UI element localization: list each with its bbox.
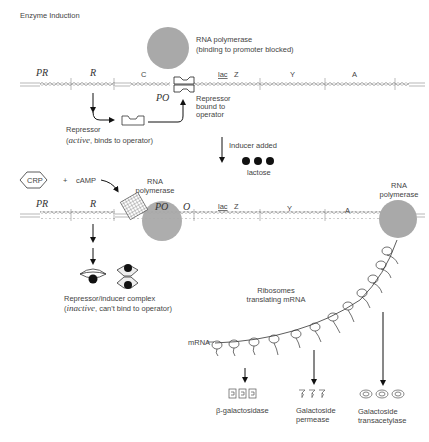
product-label-permease-line2: permease (296, 415, 329, 424)
diagram-title: Enzyme Induction (20, 11, 80, 20)
mrna-label: mRNA (188, 338, 210, 347)
beta-galactosidase-icon (229, 389, 256, 398)
product-label-beta-galactosidase: β-galactosidase (216, 406, 269, 415)
repressor-active-icon (122, 116, 144, 125)
gene-pr-top: PR (35, 67, 48, 78)
repressor-dimer-inducer-icon (117, 264, 138, 289)
galactoside-permease-icon (299, 390, 325, 398)
repressor-state: (active, binds to operator) (66, 135, 153, 145)
gene-pr-bottom: PR (35, 198, 48, 209)
crp-label: CRP (27, 176, 43, 185)
rna-polymerase-1-line2: polymerase (136, 186, 175, 195)
gene-lac-bottom: lac (218, 202, 228, 211)
product-label-transacetylase-line1: Galactoside (358, 407, 398, 416)
inducer-label: Inducer added (229, 141, 277, 150)
gene-z-top: Z (234, 70, 239, 79)
gene-y-bottom: Y (287, 204, 292, 213)
rna-polymerase-label: RNA polymerase (196, 35, 252, 44)
rna-polymerase-2-line2: polymerase (380, 190, 419, 199)
galactoside-transacetylase-icon (360, 390, 404, 398)
plus-sign: + (63, 176, 68, 185)
gene-y-top: Y (290, 70, 295, 79)
gene-po-top: PO (155, 92, 169, 103)
gene-a-bottom: A (345, 206, 350, 215)
rna-polymerase-blocked (147, 27, 189, 69)
gene-r-bottom: R (89, 198, 96, 209)
rna-polymerase-2-line1: RNA (391, 181, 407, 190)
gene-z-bottom: Z (234, 202, 239, 211)
product-label-permease-line1: Galactoside (296, 406, 336, 415)
product-arrows (245, 312, 383, 383)
rna-polymerase-1-line1: RNA (147, 177, 163, 186)
ribosomes-label-line2: translating mRNA (247, 295, 306, 304)
mrna-strand (215, 240, 397, 343)
lactose-label: lactose (247, 168, 271, 177)
gene-po-bottom: PO (154, 201, 168, 212)
lactose-molecules (242, 157, 274, 165)
rna-polymerase-sub: (binding to promoter blocked) (196, 45, 294, 54)
complex-state: (inactive, can't bind to operator) (64, 303, 172, 313)
gene-r-top: R (89, 67, 96, 78)
gene-lac-top: lac (218, 70, 228, 79)
repressor-bound-line3: operator (196, 110, 224, 119)
rna-polymerase-transcribing (379, 200, 417, 238)
camp-arrow (101, 180, 117, 190)
top-dna-strand (20, 78, 425, 90)
gene-o-bottom: O (183, 201, 190, 212)
camp-label: cAMP (76, 176, 96, 185)
gene-a-top: A (352, 70, 357, 79)
repressor-bound-icon (174, 77, 194, 92)
product-label-transacetylase-line2: transacetylase (358, 416, 406, 425)
gene-c-top: C (141, 70, 147, 79)
repressor-label: Repressor (66, 125, 101, 134)
enzyme-induction-diagram: Enzyme Induction RNA polymerase (binding… (0, 0, 429, 442)
complex-label: Repressor/inducer complex (64, 294, 156, 303)
ribosomes-label-line1: Ribosomes (257, 286, 295, 295)
repressor-inducer-complex-icon (80, 269, 106, 284)
